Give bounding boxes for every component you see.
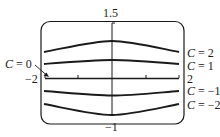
c0-value: = 0 (13, 57, 32, 71)
legend-value: = −2 (195, 98, 220, 112)
legend-c-1: C = 1 (187, 60, 214, 72)
x-min-label: −2 (25, 73, 38, 85)
legend-value: = 2 (195, 46, 214, 60)
legend-var: C (187, 84, 195, 98)
legend-var: C (187, 59, 195, 73)
legend-value: = −1 (195, 84, 220, 98)
y-min-label: −1 (105, 121, 118, 133)
legend-c-neg1: C = −1 (187, 85, 220, 97)
legend-c-neg2: C = −2 (187, 99, 220, 111)
legend-value: = 1 (195, 59, 214, 73)
legend-var: C (187, 46, 195, 60)
legend-c-2: C = 2 (187, 47, 214, 59)
y-max-label: 1.5 (103, 7, 118, 19)
c0-var: C (5, 57, 13, 71)
legend-var: C (187, 98, 195, 112)
c0-annotation-label: C = 0 (5, 58, 32, 70)
